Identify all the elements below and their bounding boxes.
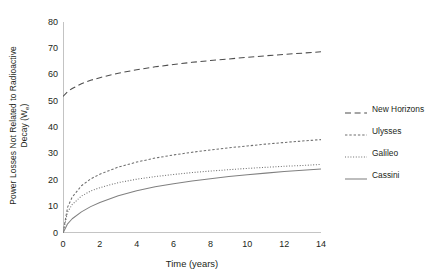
legend-item-galileo[interactable]: Galileo <box>345 142 434 164</box>
series-line-new-horizons <box>63 52 321 97</box>
y-tick-label: 30 <box>38 149 58 158</box>
x-tick-label: 0 <box>51 240 75 249</box>
x-tick-label: 12 <box>272 240 296 249</box>
y-tick-label: 50 <box>38 97 58 106</box>
plot-area <box>63 22 321 233</box>
series-line-cassini <box>63 169 321 233</box>
y-tick-label: 10 <box>38 202 58 211</box>
y-axis-label-line1: Power Losses Not Related to Radioactive <box>8 46 18 204</box>
chart-legend: New HorizonsUlyssesGalileoCassini <box>345 98 434 186</box>
x-tick-label: 8 <box>198 240 222 249</box>
legend-line-swatch <box>345 170 367 180</box>
y-axis-label-subscript: e <box>23 106 29 109</box>
y-tick-label: 70 <box>38 44 58 53</box>
y-tick-label: 0 <box>38 229 58 238</box>
legend-label: Ulysses <box>372 126 401 136</box>
legend-line-swatch <box>345 148 367 158</box>
y-axis-label-line2-post: ) <box>19 103 29 106</box>
series-line-ulysses <box>63 140 321 233</box>
y-axis-label-line2-pre: Decay (W <box>19 109 29 147</box>
legend-label: New Horizons <box>372 104 424 114</box>
legend-label: Cassini <box>372 170 399 180</box>
y-tick-label: 20 <box>38 176 58 185</box>
legend-line-swatch <box>345 126 367 136</box>
y-tick-label: 80 <box>38 18 58 27</box>
x-tick-label: 2 <box>88 240 112 249</box>
x-tick-label: 10 <box>235 240 259 249</box>
legend-label: Galileo <box>372 148 398 158</box>
plot-svg <box>63 22 321 233</box>
series-line-galileo <box>63 164 321 233</box>
legend-item-cassini[interactable]: Cassini <box>345 164 434 186</box>
chart-figure: Power Losses Not Related to Radioactive … <box>0 0 434 280</box>
legend-item-ulysses[interactable]: Ulysses <box>345 120 434 142</box>
x-axis-label: Time (years) <box>63 258 321 269</box>
legend-item-new-horizons[interactable]: New Horizons <box>345 98 434 120</box>
x-tick-label: 6 <box>162 240 186 249</box>
x-axis-tick-labels: 02468101214 <box>63 240 343 254</box>
legend-line-swatch <box>345 104 367 114</box>
y-tick-label: 60 <box>38 70 58 79</box>
x-tick-label: 14 <box>309 240 333 249</box>
x-tick-label: 4 <box>125 240 149 249</box>
y-axis-label-line2: Decay (We) <box>19 46 31 204</box>
y-tick-label: 40 <box>38 123 58 132</box>
y-axis-tick-labels: 01020304050607080 <box>33 0 58 280</box>
